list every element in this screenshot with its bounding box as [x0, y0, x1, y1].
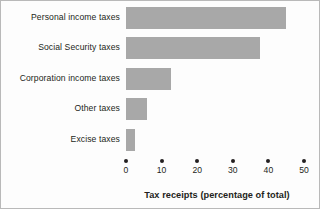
category-label: Excise taxes	[0, 134, 120, 144]
category-label: Personal income taxes	[0, 12, 120, 22]
x-tick-marker	[195, 159, 199, 163]
bar	[126, 98, 147, 120]
x-tick-label: 0	[113, 165, 139, 175]
category-label: Corporation income taxes	[0, 73, 120, 83]
bar-row	[126, 98, 304, 120]
x-tick-marker	[160, 159, 164, 163]
bar-row	[126, 7, 304, 29]
bar-chart-figure: Personal income taxesSocial Security tax…	[0, 0, 320, 209]
bar-row	[126, 37, 304, 59]
bar-row	[126, 68, 304, 90]
category-axis-labels: Personal income taxesSocial Security tax…	[1, 7, 120, 159]
bar	[126, 37, 260, 59]
bar	[126, 129, 135, 151]
bar-row	[126, 129, 304, 151]
x-axis: 01020304050	[126, 159, 304, 189]
x-tick-marker	[124, 159, 128, 163]
x-tick-label: 10	[149, 165, 175, 175]
plot-area	[126, 7, 304, 159]
bar	[126, 68, 171, 90]
x-tick-marker	[302, 159, 306, 163]
x-tick-label: 30	[220, 165, 246, 175]
x-tick-marker	[266, 159, 270, 163]
category-label: Other taxes	[0, 103, 120, 113]
x-tick-marker	[231, 159, 235, 163]
x-axis-title: Tax receipts (percentage of total)	[119, 190, 315, 200]
bar	[126, 7, 286, 29]
x-tick-label: 50	[291, 165, 317, 175]
category-label: Social Security taxes	[0, 42, 120, 52]
x-tick-label: 20	[184, 165, 210, 175]
x-tick-label: 40	[255, 165, 281, 175]
